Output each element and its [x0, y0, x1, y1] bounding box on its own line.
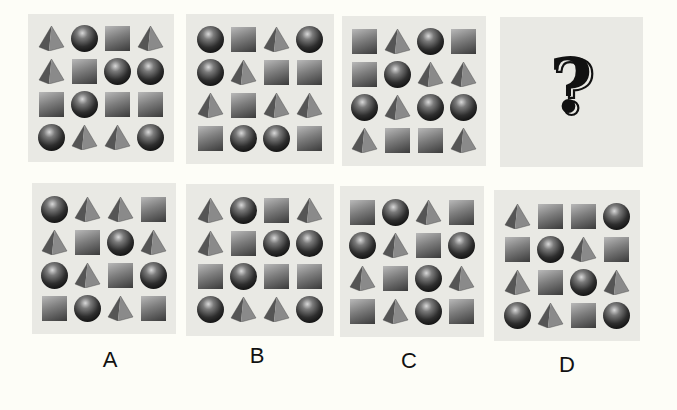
square-icon [296, 59, 323, 86]
square-icon [263, 263, 290, 290]
pyramid-icon [382, 232, 409, 259]
square-icon [570, 302, 597, 329]
pyramid-icon [38, 25, 65, 52]
square-icon [384, 127, 411, 154]
sphere-icon [140, 262, 167, 289]
sphere-icon [603, 302, 630, 329]
square-icon [349, 199, 376, 226]
sphere-icon [71, 25, 98, 52]
sphere-icon [38, 124, 65, 151]
square-icon [450, 28, 477, 55]
square-icon [415, 232, 442, 259]
pyramid-icon [263, 92, 290, 119]
sphere-icon [41, 262, 68, 289]
square-icon [351, 61, 378, 88]
shape-grid [504, 203, 630, 329]
pyramid-icon [504, 203, 531, 230]
sphere-icon [537, 236, 564, 263]
shape-grid [349, 199, 475, 325]
pyramid-icon [537, 302, 564, 329]
sphere-icon [382, 199, 409, 226]
sphere-icon [230, 125, 257, 152]
sphere-icon [351, 94, 378, 121]
square-icon [537, 203, 564, 230]
sphere-icon [603, 203, 630, 230]
sphere-icon [415, 298, 442, 325]
square-icon [230, 26, 257, 53]
sphere-icon [107, 229, 134, 256]
pyramid-icon [448, 265, 475, 292]
pyramid-icon [263, 296, 290, 323]
sphere-icon [41, 196, 68, 223]
pyramid-icon [263, 26, 290, 53]
sphere-icon [296, 296, 323, 323]
question-mark-icon: ? ? [500, 17, 643, 167]
sphere-icon [415, 265, 442, 292]
sphere-icon [197, 26, 224, 53]
sphere-icon [417, 94, 444, 121]
square-icon [349, 298, 376, 325]
square-icon [296, 263, 323, 290]
square-icon [140, 295, 167, 322]
pyramid-icon [570, 236, 597, 263]
pyramid-icon [450, 127, 477, 154]
square-icon [296, 125, 323, 152]
pyramid-icon [230, 296, 257, 323]
pyramid-icon [296, 197, 323, 224]
shape-grid [38, 25, 164, 151]
sphere-icon [570, 269, 597, 296]
pyramid-icon [230, 59, 257, 86]
square-icon [74, 229, 101, 256]
sphere-icon [349, 232, 376, 259]
pyramid-icon [197, 92, 224, 119]
pyramid-icon [384, 94, 411, 121]
sphere-icon [230, 263, 257, 290]
sphere-icon [263, 230, 290, 257]
sphere-icon [197, 59, 224, 86]
square-icon [104, 91, 131, 118]
shape-grid [197, 26, 323, 152]
option-c-label[interactable]: C [394, 348, 424, 374]
option-a-label[interactable]: A [95, 347, 125, 373]
pyramid-icon [351, 127, 378, 154]
square-icon [230, 92, 257, 119]
square-icon [197, 125, 224, 152]
square-icon [570, 203, 597, 230]
pyramid-icon [74, 196, 101, 223]
sequence-panel-3 [342, 16, 486, 166]
square-icon [197, 263, 224, 290]
square-icon [41, 295, 68, 322]
pyramid-icon [71, 124, 98, 151]
sphere-icon [450, 94, 477, 121]
shape-grid [351, 28, 477, 154]
pyramid-icon [603, 269, 630, 296]
square-icon [417, 127, 444, 154]
sphere-icon [230, 197, 257, 224]
sphere-icon [71, 91, 98, 118]
pyramid-icon [349, 265, 376, 292]
option-d-label[interactable]: D [552, 352, 582, 378]
sphere-icon [504, 302, 531, 329]
pyramid-icon [107, 196, 134, 223]
option-d-panel[interactable] [494, 190, 640, 341]
pyramid-icon [382, 298, 409, 325]
square-icon [230, 230, 257, 257]
option-b-panel[interactable] [186, 184, 334, 336]
pyramid-icon [74, 262, 101, 289]
sphere-icon [137, 58, 164, 85]
pyramid-icon [197, 230, 224, 257]
square-icon [137, 91, 164, 118]
option-b-label[interactable]: B [242, 343, 272, 369]
pyramid-icon [415, 199, 442, 226]
square-icon [382, 265, 409, 292]
square-icon [263, 197, 290, 224]
option-c-panel[interactable] [340, 186, 484, 337]
option-a-panel[interactable] [32, 183, 176, 334]
sphere-icon [137, 124, 164, 151]
shape-grid [197, 197, 323, 323]
sphere-icon [417, 28, 444, 55]
pyramid-icon [296, 92, 323, 119]
square-icon [603, 236, 630, 263]
pyramid-icon [38, 58, 65, 85]
square-icon [71, 58, 98, 85]
